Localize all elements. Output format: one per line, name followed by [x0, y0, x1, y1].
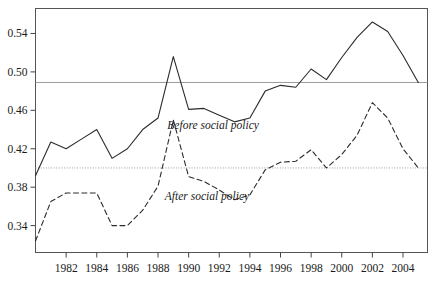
line-chart: 0.340.380.420.460.500.541982198419861988…: [0, 0, 437, 286]
series-annotation-after: After social policy: [164, 190, 250, 203]
chart-container: 0.340.380.420.460.500.541982198419861988…: [0, 0, 437, 286]
y-tick-label-0.42: 0.42: [7, 143, 27, 155]
x-tick-label-1998: 1998: [300, 262, 323, 274]
x-tick-label-2002: 2002: [361, 262, 384, 274]
x-tick-label-1988: 1988: [147, 262, 170, 274]
y-tick-label-0.46: 0.46: [7, 104, 27, 116]
y-tick-label-0.34: 0.34: [7, 220, 27, 232]
series-line-before: [36, 22, 419, 176]
x-tick-label-2004: 2004: [392, 262, 415, 274]
y-tick-label-0.50: 0.50: [7, 66, 27, 78]
x-tick-label-1990: 1990: [177, 262, 200, 274]
series-annotation-before: Before social policy: [167, 119, 259, 132]
x-tick-label-1996: 1996: [269, 262, 292, 274]
x-tick-label-1994: 1994: [238, 262, 261, 274]
x-tick-label-1992: 1992: [208, 262, 231, 274]
x-tick-label-2000: 2000: [330, 262, 353, 274]
x-tick-label-1986: 1986: [116, 262, 139, 274]
x-tick-label-1984: 1984: [85, 262, 108, 274]
y-tick-label-0.54: 0.54: [7, 27, 27, 39]
y-tick-label-0.38: 0.38: [7, 181, 27, 193]
x-tick-label-1982: 1982: [55, 262, 78, 274]
